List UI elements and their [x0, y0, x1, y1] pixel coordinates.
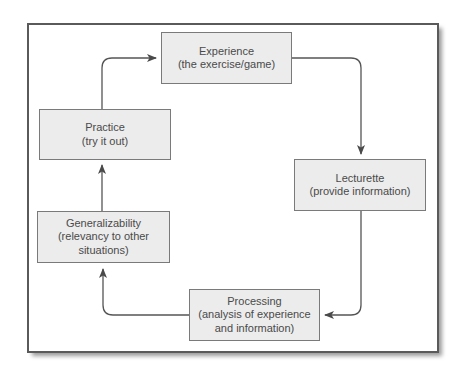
node-title: Generalizability: [66, 217, 141, 231]
node-subtitle: and information): [215, 322, 295, 336]
node-lecturette: Lecturette (provide information): [294, 159, 426, 211]
arrow-processing-to-generalizability: [103, 269, 189, 315]
node-generalizability: Generalizability (relevancy to other sit…: [37, 211, 170, 263]
arrow-experience-to-lecturette: [292, 58, 361, 154]
node-processing: Processing (analysis of experience and i…: [189, 289, 320, 341]
node-experience: Experience (the exercise/game): [161, 32, 292, 84]
node-subtitle: (relevancy to other: [58, 230, 149, 244]
node-title: Processing: [227, 295, 281, 309]
node-subtitle: (provide information): [310, 185, 411, 199]
arrow-lecturette-to-processing: [325, 211, 361, 315]
node-subtitle: (the exercise/game): [178, 58, 275, 72]
node-subtitle: (try it out): [82, 135, 128, 149]
node-title: Lecturette: [336, 172, 385, 186]
node-subtitle: situations): [78, 244, 128, 258]
node-practice: Practice (try it out): [39, 109, 171, 160]
node-title: Practice: [85, 121, 125, 135]
node-subtitle: (analysis of experience: [198, 308, 311, 322]
arrow-practice-to-experience: [102, 58, 156, 109]
node-title: Experience: [199, 45, 254, 59]
